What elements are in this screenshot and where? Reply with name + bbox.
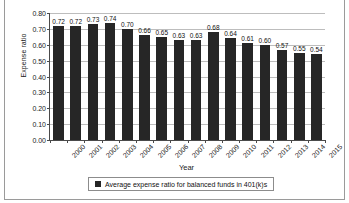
chart-legend: Average expense ratio for balanced funds…	[88, 177, 274, 191]
bar-value-label: 0.55	[293, 45, 306, 52]
x-axis-tick-labels: 2000200120022003200420052006200720082009…	[49, 143, 324, 165]
x-axis-tick-label: 2008	[208, 143, 224, 159]
bar[interactable]	[277, 50, 288, 140]
y-axis-tick-label: 0.20	[22, 105, 46, 112]
bar[interactable]	[191, 40, 202, 140]
bar-value-label: 0.70	[121, 21, 134, 28]
bar[interactable]	[88, 24, 99, 140]
y-axis-tick-label: 0.10	[22, 121, 46, 128]
x-axis-tick-label: 2001	[87, 143, 103, 159]
bar-slot: 0.74	[102, 13, 119, 140]
bar-slot: 0.73	[84, 13, 101, 140]
bar-slot: 0.66	[136, 13, 153, 140]
x-axis-tick-label: 2002	[105, 143, 121, 159]
bar-chart: Expense ratio 0.800.700.600.500.400.300.…	[0, 0, 349, 203]
bar-slot: 0.57	[273, 13, 290, 140]
bar[interactable]	[139, 35, 150, 140]
bar-slot: 0.54	[308, 13, 325, 140]
plot-area: 0.720.720.730.740.700.660.650.630.630.68…	[49, 13, 325, 141]
y-axis-tick-label: 0.60	[22, 41, 46, 48]
bar[interactable]	[242, 43, 253, 140]
bar-value-label: 0.65	[155, 29, 168, 36]
bar-value-label: 0.60	[259, 37, 272, 44]
x-axis-tick-label: 2006	[173, 143, 189, 159]
bar[interactable]	[225, 38, 236, 140]
bar-slot: 0.60	[256, 13, 273, 140]
bar-slot: 0.63	[188, 13, 205, 140]
bar[interactable]	[156, 37, 167, 140]
x-axis-tick-label: 2010	[242, 143, 258, 159]
bar[interactable]	[311, 54, 322, 140]
y-axis-tick-labels: 0.800.700.600.500.400.300.200.100.00	[22, 13, 46, 140]
bar-value-label: 0.63	[173, 32, 186, 39]
x-axis-tick-label: 2013	[294, 143, 310, 159]
x-axis-tick-label: 2000	[70, 143, 86, 159]
x-axis-tick-label: 2005	[156, 143, 172, 159]
bar[interactable]	[105, 23, 116, 140]
bar-slot: 0.55	[291, 13, 308, 140]
bar-value-label: 0.54	[310, 46, 323, 53]
legend-label: Average expense ratio for balanced funds…	[105, 181, 267, 188]
y-axis-tick-label: 0.40	[22, 73, 46, 80]
bar-value-label: 0.72	[69, 18, 82, 25]
bars-layer: 0.720.720.730.740.700.660.650.630.630.68…	[50, 13, 325, 140]
bar-value-label: 0.74	[104, 15, 117, 22]
bar-value-label: 0.72	[52, 18, 65, 25]
bar-slot: 0.64	[222, 13, 239, 140]
bar-slot: 0.65	[153, 13, 170, 140]
x-axis-tick-label: 2003	[122, 143, 138, 159]
x-axis-tick-label: 2015	[328, 143, 344, 159]
bar-value-label: 0.68	[207, 24, 220, 31]
bar-value-label: 0.64	[224, 30, 237, 37]
x-axis-tick-label: 2012	[276, 143, 292, 159]
bar-slot: 0.70	[119, 13, 136, 140]
bar-slot: 0.63	[170, 13, 187, 140]
y-axis-tick-label: 0.80	[22, 10, 46, 17]
bar-slot: 0.72	[67, 13, 84, 140]
bar[interactable]	[122, 29, 133, 140]
bar-value-label: 0.66	[138, 27, 151, 34]
x-axis-title: Year	[49, 163, 324, 172]
y-axis-tick-label: 0.00	[22, 137, 46, 144]
x-axis-tick-label: 2009	[225, 143, 241, 159]
x-axis-tick-label: 2014	[311, 143, 327, 159]
x-axis-tick-label: 2007	[190, 143, 206, 159]
x-axis-tick-label: 2011	[259, 143, 275, 159]
bar-slot: 0.72	[50, 13, 67, 140]
bar-value-label: 0.63	[190, 32, 203, 39]
bar-value-label: 0.57	[276, 42, 289, 49]
bar[interactable]	[260, 45, 271, 140]
x-axis-tick-label: 2004	[139, 143, 155, 159]
bar-value-label: 0.61	[241, 35, 254, 42]
bar[interactable]	[70, 26, 81, 140]
bar[interactable]	[53, 26, 64, 140]
bar-slot: 0.68	[205, 13, 222, 140]
y-axis-tick-label: 0.70	[22, 25, 46, 32]
y-axis-tick-label: 0.30	[22, 89, 46, 96]
bar[interactable]	[208, 32, 219, 140]
legend-swatch-icon	[95, 181, 101, 187]
bar[interactable]	[294, 53, 305, 140]
bar-slot: 0.61	[239, 13, 256, 140]
bar[interactable]	[174, 40, 185, 140]
bar-value-label: 0.73	[87, 16, 100, 23]
y-axis-tick-label: 0.50	[22, 57, 46, 64]
x-axis-tickmark	[325, 140, 326, 143]
